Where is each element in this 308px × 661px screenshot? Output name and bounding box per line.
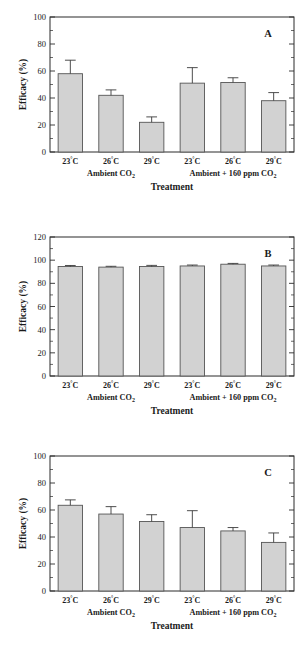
bar (180, 528, 204, 591)
x-axis-category-label: 26°C (225, 156, 241, 166)
x-axis-category-label: 26°C (103, 595, 119, 605)
bar (180, 83, 204, 152)
x-axis-category-label: 23°C (62, 595, 78, 605)
y-axis-tick-label: 20 (38, 120, 47, 130)
y-axis-tick-label: 40 (38, 325, 47, 335)
bar (261, 542, 285, 591)
plot-frame (50, 456, 294, 591)
y-axis-title: Efficacy (%) (18, 59, 29, 110)
bar (99, 267, 123, 376)
x-axis-category-label: 26°C (103, 380, 119, 390)
x-axis-title: Treatment (151, 406, 194, 416)
plot-frame (50, 17, 294, 152)
x-axis-category-label: 23°C (184, 156, 200, 166)
x-axis-title: Treatment (151, 182, 194, 192)
bar (180, 266, 204, 376)
x-axis-group-label: Ambient CO2 (87, 393, 135, 403)
x-axis-group-label: Ambient CO2 (87, 608, 135, 618)
bar (58, 267, 82, 376)
chart-panel-c: 02040608010023°C26°C29°C23°C26°C29°CAmbi… (0, 437, 308, 661)
x-axis-title: Treatment (151, 621, 194, 631)
y-axis-tick-label: 100 (33, 12, 46, 22)
chart-panel-a: 02040608010023°C26°C29°C23°C26°C29°CAmbi… (0, 0, 308, 215)
bar (221, 264, 245, 376)
y-axis-tick-label: 100 (33, 451, 46, 461)
panel-b-plot: 02040608010012023°C26°C29°C23°C26°C29°CA… (0, 215, 308, 437)
panel-letter-b: B (264, 248, 271, 259)
y-axis-tick-label: 60 (38, 505, 47, 515)
bar (139, 521, 163, 591)
x-axis-category-label: 29°C (266, 380, 282, 390)
x-axis-category-label: 23°C (184, 380, 200, 390)
x-axis-group-label: Ambient + 160 ppm CO2 (190, 169, 277, 179)
panel-a-plot: 02040608010023°C26°C29°C23°C26°C29°CAmbi… (0, 0, 308, 215)
x-axis-category-label: 29°C (266, 595, 282, 605)
bar (221, 82, 245, 152)
y-axis-tick-label: 40 (38, 93, 47, 103)
figure-container: 02040608010023°C26°C29°C23°C26°C29°CAmbi… (0, 0, 308, 661)
y-axis-title: Efficacy (%) (18, 498, 29, 549)
x-axis-category-label: 26°C (225, 380, 241, 390)
bar (261, 266, 285, 376)
bar (261, 101, 285, 152)
x-axis-category-label: 23°C (184, 595, 200, 605)
panel-letter-a: A (264, 28, 272, 39)
panel-letter-c: C (264, 467, 272, 478)
y-axis-tick-label: 60 (38, 302, 47, 312)
plot-frame (50, 237, 294, 376)
x-axis-category-label: 29°C (144, 380, 160, 390)
y-axis-title: Efficacy (%) (18, 281, 29, 332)
x-axis-category-label: 29°C (144, 595, 160, 605)
chart-panel-b: 02040608010012023°C26°C29°C23°C26°C29°CA… (0, 215, 308, 437)
y-axis-tick-label: 100 (33, 255, 46, 265)
x-axis-group-label: Ambient + 160 ppm CO2 (190, 393, 277, 403)
y-axis-tick-label: 0 (42, 147, 46, 157)
panel-c-plot: 02040608010023°C26°C29°C23°C26°C29°CAmbi… (0, 437, 308, 661)
y-axis-tick-label: 0 (42, 371, 46, 381)
y-axis-tick-label: 0 (42, 586, 46, 596)
y-axis-tick-label: 80 (38, 278, 47, 288)
y-axis-tick-label: 40 (38, 532, 47, 542)
x-axis-category-label: 29°C (144, 156, 160, 166)
y-axis-tick-label: 80 (38, 39, 47, 49)
x-axis-category-label: 29°C (266, 156, 282, 166)
x-axis-category-label: 26°C (103, 156, 119, 166)
x-axis-group-label: Ambient CO2 (87, 169, 135, 179)
bar (99, 95, 123, 152)
bar (139, 267, 163, 376)
bar (139, 122, 163, 152)
x-axis-category-label: 23°C (62, 380, 78, 390)
x-axis-category-label: 23°C (62, 156, 78, 166)
x-axis-category-label: 26°C (225, 595, 241, 605)
bar (58, 505, 82, 591)
y-axis-tick-label: 20 (38, 348, 47, 358)
x-axis-group-label: Ambient + 160 ppm CO2 (190, 608, 277, 618)
y-axis-tick-label: 120 (33, 232, 46, 242)
bar (221, 531, 245, 591)
y-axis-tick-label: 80 (38, 478, 47, 488)
y-axis-tick-label: 60 (38, 66, 47, 76)
y-axis-tick-label: 20 (38, 559, 47, 569)
bar (58, 74, 82, 152)
bar (99, 514, 123, 591)
